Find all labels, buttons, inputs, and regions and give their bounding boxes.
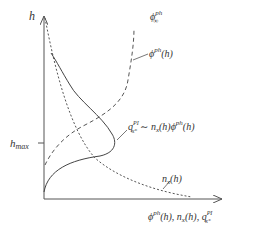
h-max-label: hmax [10, 137, 29, 151]
diagram-canvas: h hmax ϕph∞ ϕph(h) qPIx⁺ ∼ nx(h)ϕph(h) n… [0, 0, 254, 236]
x-axis-label: ϕph(h), nx(h), qPIx⁺ [148, 209, 213, 224]
phi-ph-label: ϕph(h) [149, 46, 174, 60]
q-pi-label: qPIx⁺ ∼ nx(h)ϕph(h) [128, 119, 195, 134]
n-x-curve [45, 18, 192, 197]
q-pi-curve [44, 53, 115, 192]
y-axis-label: h [29, 9, 35, 23]
n-x-label: nx(h) [162, 173, 182, 186]
q-pi-leader [117, 130, 127, 140]
phi-ph-curve [45, 28, 134, 165]
phi-inf-label: ϕph∞ [150, 9, 163, 25]
phi-ph-leader [133, 54, 148, 60]
